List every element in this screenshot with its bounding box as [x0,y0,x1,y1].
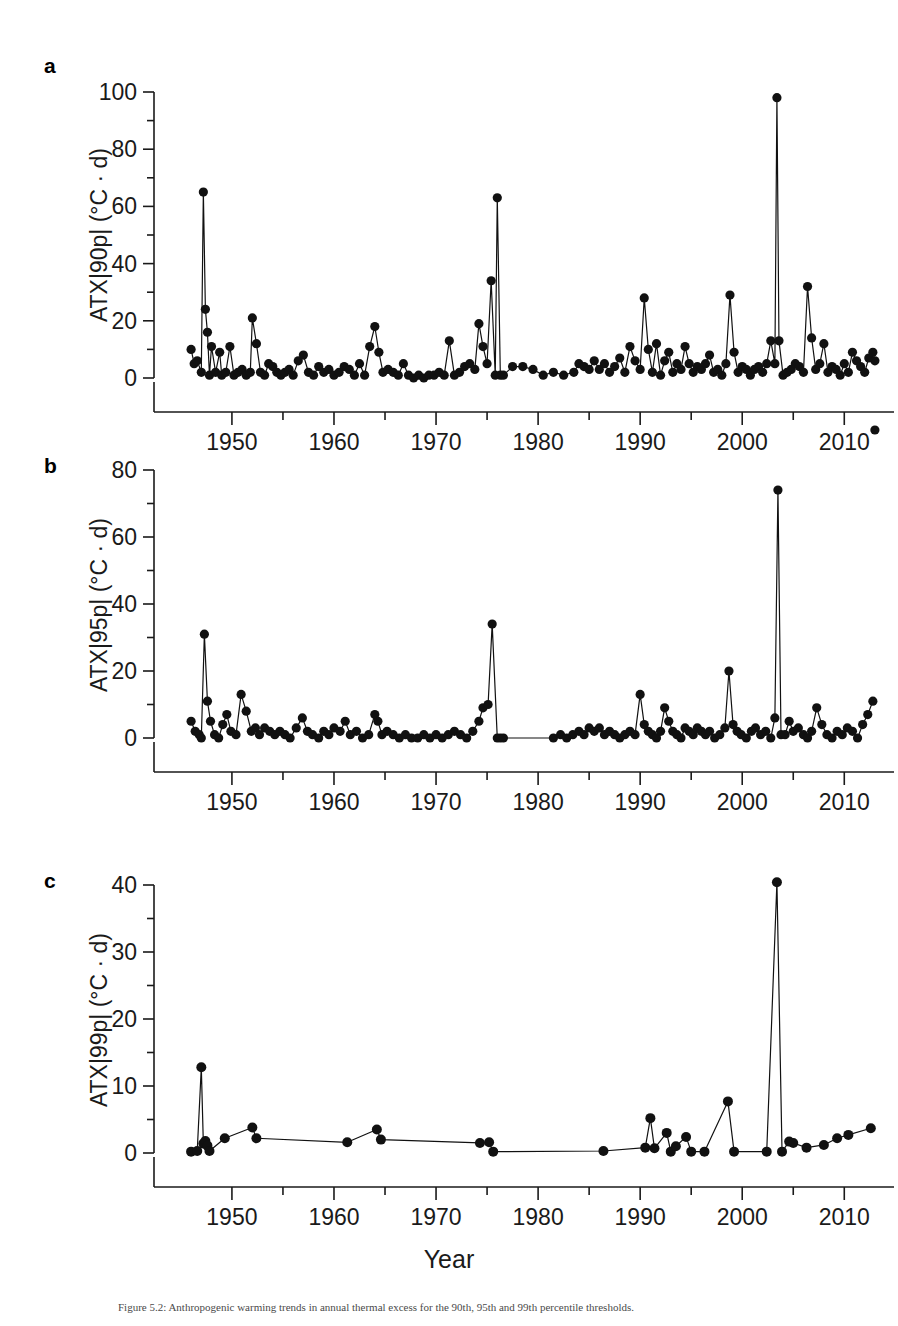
data-point [251,1133,261,1143]
figure-caption: Figure 5.2: Anthropogenic warming trends… [118,1300,798,1315]
data-point [648,368,657,377]
data-point [598,1146,608,1156]
y-tick-label: 60 [111,193,137,219]
data-point [474,717,483,726]
data-point [671,1141,681,1151]
data-point [636,690,645,699]
data-point [686,1147,696,1157]
x-tick-label: 1980 [513,789,564,815]
figure-container: a 02040608010019501960197019801990200020… [0,0,898,1326]
y-tick-label: 40 [111,872,137,898]
data-point [482,359,491,368]
data-point [662,1128,672,1138]
data-point [868,348,877,357]
data-point [785,717,794,726]
data-point [762,1147,772,1157]
data-point [374,348,383,357]
y-tick-label: 10 [111,1073,137,1099]
data-point [866,1123,876,1133]
y-tick-label: 40 [111,251,137,277]
data-point [559,371,568,380]
data-point [206,717,215,726]
data-point [299,351,308,360]
data-point [729,348,738,357]
data-point [445,336,454,345]
x-tick-label: 2010 [819,789,870,815]
data-point [836,371,845,380]
data-point [341,717,350,726]
data-point [774,336,783,345]
data-point [508,362,517,371]
data-point [720,723,729,732]
data-point [640,293,649,302]
data-point [676,365,685,374]
data-point [528,365,537,374]
panel-c-plot: 0102030401950196019701980199020002010 [0,845,898,1245]
data-point [197,368,206,377]
x-tick-label: 2010 [819,1204,870,1230]
data-point [812,703,821,712]
data-point [539,371,548,380]
data-point [470,365,479,374]
data-point [218,720,227,729]
data-point [848,348,857,357]
data-point [569,368,578,377]
data-point [615,353,624,362]
data-point [488,1147,498,1157]
data-point [499,371,508,380]
x-tick-label: 1960 [308,789,359,815]
data-point [664,348,673,357]
data-point [676,733,685,742]
data-point [843,1130,853,1140]
data-point [242,707,251,716]
data-point [488,620,497,629]
data-point [636,365,645,374]
data-point [365,342,374,351]
data-point [373,717,382,726]
data-point [853,733,862,742]
data-point [729,1147,739,1157]
x-tick-label: 1950 [206,789,257,815]
data-point [225,342,234,351]
data-point [214,733,223,742]
data-point [468,727,477,736]
data-point [248,313,257,322]
data-point [844,368,853,377]
data-point [762,359,771,368]
data-point [187,717,196,726]
data-point [644,345,653,354]
data-point [652,339,661,348]
data-point [620,368,629,377]
data-point [668,368,677,377]
data-point [815,359,824,368]
panel-a: a 02040608010019501960197019801990200020… [0,30,898,420]
y-tick-label: 0 [124,725,137,751]
data-point [656,371,665,380]
data-point [204,1146,214,1156]
y-tick-label: 20 [111,658,137,684]
data-point [215,348,224,357]
x-tick-label: 1970 [410,789,461,815]
data-point [819,1140,829,1150]
data-point [309,371,318,380]
data-point [777,1147,787,1157]
data-point [766,733,775,742]
x-tick-label: 1990 [615,789,666,815]
data-point [478,342,487,351]
y-tick-label: 40 [111,591,137,617]
x-tick-label: 1990 [615,1204,666,1230]
data-point [350,371,359,380]
data-point [187,345,196,354]
data-point [199,188,208,197]
data-point [770,359,779,368]
data-point [549,368,558,377]
data-point [260,371,269,380]
data-point [863,710,872,719]
data-point [440,371,449,380]
x-tick-label: 2000 [717,1204,768,1230]
data-point [590,356,599,365]
data-point [220,1133,230,1143]
series-line [191,98,875,378]
x-tick-label: 1960 [308,1204,359,1230]
data-point [660,703,669,712]
